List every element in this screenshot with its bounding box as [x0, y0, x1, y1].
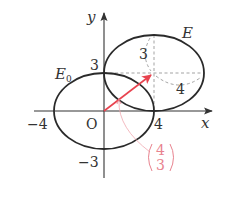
vector-component-x: 4: [156, 142, 165, 158]
ellipse-E0-label-sub: 0: [66, 74, 72, 84]
ellipse-E0-label: E0: [54, 65, 72, 84]
y-axis-label: y: [86, 8, 96, 26]
left-paren: [149, 144, 153, 171]
ellipse-E-label: E: [181, 24, 193, 42]
tick-x-pos-4: 4: [154, 116, 163, 132]
tick-y-neg-3: −3: [78, 154, 99, 170]
column-vector-label: 4 3: [149, 142, 174, 173]
origin-label: O: [86, 116, 97, 132]
horizontal-semi-axis-label: 4: [176, 81, 185, 97]
tick-y-pos-3: 3: [90, 57, 99, 73]
vector-component-y: 3: [156, 157, 165, 173]
right-paren: [170, 144, 174, 171]
vertical-semi-axis-label: 3: [139, 46, 148, 62]
x-axis-label: x: [201, 114, 210, 132]
ellipse-E0-label-main: E: [54, 65, 66, 83]
ellipse-translation-diagram: y x O −4 4 3 −3 E E0 3 4 4 3: [0, 0, 226, 200]
tick-x-neg-4: −4: [27, 116, 48, 132]
